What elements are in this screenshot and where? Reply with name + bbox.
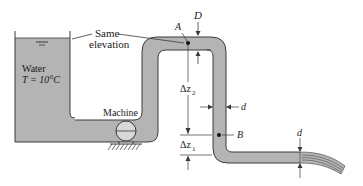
label-machine: Machine <box>103 107 139 118</box>
ground-hatch <box>108 144 140 150</box>
label-point-b: B <box>237 129 243 140</box>
arrowhead <box>196 31 201 36</box>
point-b-marker <box>217 133 221 137</box>
label-diameter-outlet: d <box>297 127 303 138</box>
label-delta-z2: Δz 2 <box>179 82 197 97</box>
label-water: Water <box>22 63 46 74</box>
arrowhead <box>298 163 303 168</box>
label-point-a: A <box>174 21 182 32</box>
tank-water <box>15 38 75 142</box>
arrowhead <box>196 51 201 56</box>
label-diameter-vertical: d <box>241 101 247 112</box>
label-delta-z1: Δz 1 <box>180 139 196 153</box>
label-diameter-large: D <box>193 9 202 21</box>
label-elevation: elevation <box>89 38 130 50</box>
svg-text:Δz: Δz <box>180 139 191 150</box>
svg-text:2: 2 <box>192 89 196 97</box>
point-a-marker <box>186 41 190 45</box>
svg-text:Δz: Δz <box>180 83 191 94</box>
fluid-system-diagram: Same elevation Water T = 10°C Machine A … <box>0 0 363 186</box>
outlet-jet <box>300 152 345 174</box>
label-temperature: T = 10°C <box>22 74 60 85</box>
arrowhead <box>186 156 191 162</box>
arrowhead <box>186 128 191 134</box>
pipe-small <box>207 37 300 163</box>
arrowhead <box>298 147 303 152</box>
svg-text:1: 1 <box>192 145 196 153</box>
arrowhead <box>226 105 231 110</box>
arrowhead <box>208 105 213 110</box>
